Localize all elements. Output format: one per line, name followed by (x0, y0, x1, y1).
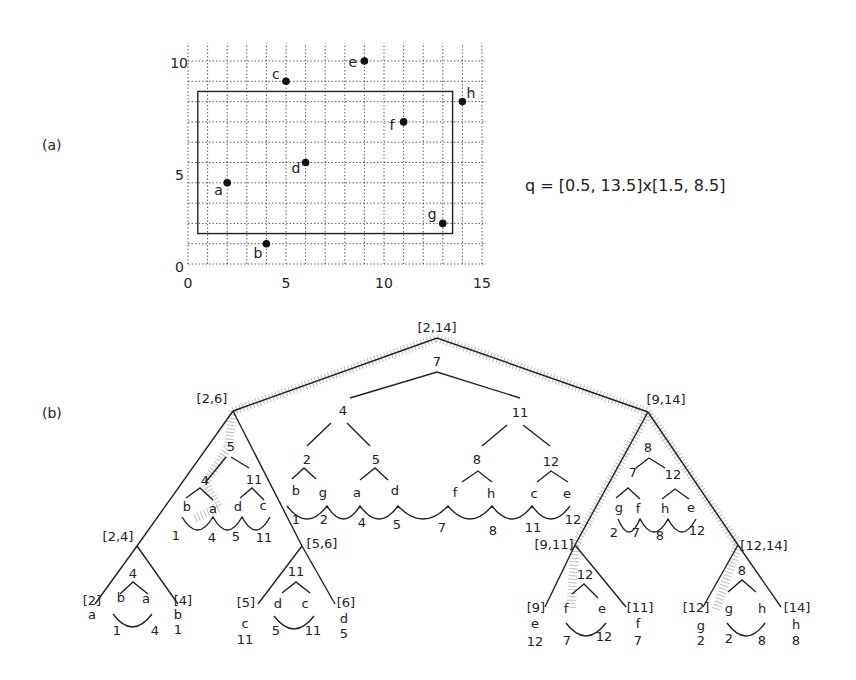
assoc-label: c (530, 486, 537, 501)
leaf-11-point: f (636, 616, 641, 631)
assoc-label: f (564, 601, 569, 616)
assoc-label: b (292, 483, 300, 498)
assoc-label: 5 (372, 452, 380, 467)
assoc-label: 5 (393, 517, 401, 532)
assoc-label: 2 (320, 512, 328, 527)
assoc-label: 5 (232, 529, 240, 544)
assoc-label: 1 (172, 528, 180, 543)
grid-lines (188, 43, 486, 264)
assoc-label: 11 (288, 564, 305, 579)
assoc-label: e (563, 486, 571, 501)
leaf-2-point: a (88, 607, 96, 622)
assoc-label: 1 (292, 512, 300, 527)
leaf-5-value: 11 (237, 632, 254, 647)
point-label-f: f (390, 117, 396, 133)
assoc-label: e (598, 601, 606, 616)
leaf-14-value: 8 (792, 633, 800, 648)
assoc-label: b (117, 590, 125, 605)
assoc-label: 11 (256, 530, 273, 545)
point-label-e: e (348, 54, 357, 70)
search-path-halo (195, 338, 738, 610)
assoc-label: h (661, 501, 669, 516)
assoc-label: e (687, 500, 695, 515)
assoc-label: 2 (303, 452, 311, 467)
point-label-a: a (214, 182, 223, 198)
leaf-4-value: 1 (174, 622, 182, 637)
point-g (439, 220, 447, 228)
point-h (459, 98, 467, 106)
assoc-label: 2 (610, 525, 618, 540)
assoc-label: 4 (208, 530, 216, 545)
assoc-label: 8 (473, 452, 481, 467)
leaf-14-point: h (792, 617, 800, 632)
leaf-6-value: 5 (340, 626, 348, 641)
assoc-label: 12 (543, 454, 560, 469)
assoc-label: 7 (438, 520, 446, 535)
point-label-h: h (466, 85, 475, 101)
assoc-label: 8 (489, 523, 497, 538)
leaf-5-point: c (241, 616, 248, 631)
node-9-14: [9,14] (646, 392, 685, 407)
assoc-label: c (301, 596, 308, 611)
leaf-12-value: 2 (697, 633, 705, 648)
assoc-label: 11 (512, 405, 529, 420)
assoc-label: 8 (656, 528, 664, 543)
assoc-label: g (615, 500, 623, 515)
node-2: [2] (83, 593, 101, 608)
assoc-label: 12 (665, 467, 682, 482)
assoc-label: 4 (339, 403, 347, 418)
assoc-label: 2 (725, 631, 733, 646)
node-12-14: [12,14] (740, 538, 787, 553)
node-4: [4] (174, 593, 192, 608)
leaf-4-point: b (174, 607, 182, 622)
assoc-label: 5 (227, 439, 235, 454)
assoc-label: f (636, 501, 641, 516)
point-c (282, 78, 290, 86)
assoc-label: 4 (358, 515, 366, 530)
leaf-11-value: 7 (634, 633, 642, 648)
assoc-label: 4 (129, 566, 137, 581)
assoc-label: 8 (644, 440, 652, 455)
leaf-12-point: g (697, 618, 705, 633)
assoc-label: 8 (738, 563, 746, 578)
x-tick-5: 5 (282, 275, 291, 291)
point-label-c: c (272, 66, 280, 82)
assoc-label: 11 (305, 623, 322, 638)
point-b (263, 240, 271, 248)
x-tick-15: 15 (473, 275, 491, 291)
assoc-label: h (487, 486, 495, 501)
node-12: [12] (683, 600, 710, 615)
assoc-label: h (758, 601, 766, 616)
point-e (361, 57, 369, 65)
query-text: q = [0.5, 13.5]x[1.5, 8.5] (525, 176, 725, 195)
point-label-b: b (253, 245, 262, 261)
assoc-label: d (234, 499, 242, 514)
leaf-9-point: e (531, 616, 539, 631)
assoc-label: a (353, 485, 361, 500)
node-root: [2,14] (417, 320, 456, 335)
y-tick-0: 0 (175, 259, 184, 275)
assoc-label: 1 (113, 623, 121, 638)
assoc-label: 7 (433, 354, 441, 369)
assoc-label: f (453, 485, 458, 500)
point-a (223, 179, 231, 187)
assoc-label: a (142, 591, 150, 606)
assoc-label: 4 (201, 473, 209, 488)
node-9-11: [9,11] (534, 537, 573, 552)
node-2-4: [2,4] (103, 529, 134, 544)
point-d (302, 159, 310, 167)
point-f (400, 118, 408, 126)
node-11: [11] (627, 600, 654, 615)
assoc-label: 8 (758, 633, 766, 648)
assoc-label: 12 (596, 629, 613, 644)
assoc-label: 4 (151, 623, 159, 638)
node-9: [9] (527, 600, 545, 615)
panel-b-label: (b) (42, 405, 62, 421)
x-tick-10: 10 (375, 275, 393, 291)
assoc-label: 7 (629, 465, 637, 480)
y-tick-10: 10 (170, 55, 188, 71)
node-2-6: [2,6] (197, 391, 228, 406)
assoc-label: 5 (272, 623, 280, 638)
assoc-label: g (319, 485, 327, 500)
assoc-label: d (391, 483, 399, 498)
